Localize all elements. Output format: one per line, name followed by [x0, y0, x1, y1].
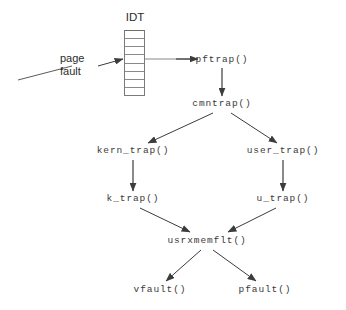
- idt-title: IDT: [126, 11, 145, 24]
- idt-row: [125, 64, 144, 72]
- idt-row: [125, 39, 144, 47]
- idt-row: [125, 55, 144, 63]
- idt-row: [125, 31, 144, 39]
- page-fault-label-line2: fault: [60, 65, 84, 78]
- idt-row: [125, 80, 144, 88]
- edge-cmntrap-to-user-trap: [231, 113, 277, 143]
- node-u-trap: u_trap(): [257, 194, 310, 204]
- node-vfault: vfault(): [134, 285, 187, 295]
- node-k-trap: k_trap(): [107, 194, 160, 204]
- edge-k-trap-to-usrxmemflt: [140, 208, 190, 232]
- page-fault-label-line1: page: [60, 52, 84, 65]
- page-fault-flow-diagram: IDT page fault pftrap() cmntrap() kern_t…: [0, 0, 346, 310]
- edge-usrxmemflt-to-vfault: [166, 250, 201, 281]
- edge-pagefault-to-idt: [98, 59, 123, 66]
- node-kern-trap: kern_trap(): [97, 146, 170, 156]
- page-fault-label: page fault: [60, 52, 84, 77]
- node-user-trap: user_trap(): [247, 146, 320, 156]
- edge-usrxmemflt-to-pfault: [213, 250, 256, 281]
- idt-row: [125, 72, 144, 80]
- node-usrxmemflt: usrxmemflt(): [167, 236, 246, 246]
- idt-row: [125, 88, 144, 95]
- node-pftrap: pftrap(): [196, 55, 249, 65]
- idt-row: [125, 47, 144, 55]
- edge-cmntrap-to-kern-trap: [148, 113, 213, 143]
- node-cmntrap: cmntrap(): [192, 99, 251, 109]
- idt-table: [124, 30, 145, 96]
- node-pfault: pfault(): [239, 285, 292, 295]
- edge-u-trap-to-usrxmemflt: [228, 208, 276, 232]
